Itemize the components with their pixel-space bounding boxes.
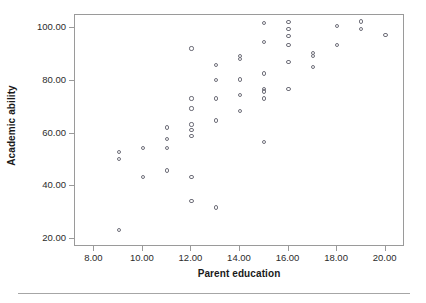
x-axis-title: Parent education	[74, 268, 404, 279]
data-point	[165, 168, 169, 172]
x-tick-mark	[336, 246, 337, 251]
plot-area	[74, 14, 404, 246]
data-point	[117, 150, 121, 154]
data-point	[262, 40, 266, 44]
data-point	[189, 199, 193, 203]
data-point	[238, 93, 242, 97]
y-tick-mark	[69, 133, 74, 134]
data-point	[335, 24, 339, 28]
data-point	[286, 20, 290, 24]
x-tick-label: 16.00	[263, 252, 313, 263]
scatter-plot-figure: Academic ability 20.0040.0060.0080.00100…	[0, 0, 426, 303]
y-tick-label: 80.00	[6, 74, 66, 85]
data-point	[311, 65, 315, 69]
data-point	[286, 34, 290, 38]
data-point	[359, 27, 363, 31]
data-point	[214, 205, 218, 209]
y-tick-label: 20.00	[6, 232, 66, 243]
x-tick-label: 18.00	[311, 252, 361, 263]
data-point	[189, 106, 193, 110]
data-point	[262, 140, 266, 144]
x-tick-mark	[385, 246, 386, 251]
data-point	[286, 87, 290, 91]
x-tick-mark	[93, 246, 94, 251]
data-point	[286, 60, 290, 64]
y-tick-label: 60.00	[6, 127, 66, 138]
y-tick-mark	[69, 238, 74, 239]
data-point	[189, 175, 193, 179]
data-point	[117, 228, 121, 232]
data-point	[262, 71, 266, 75]
y-axis-title: Academic ability	[0, 0, 22, 250]
data-point	[335, 43, 339, 47]
data-point	[262, 21, 266, 25]
x-tick-mark	[239, 246, 240, 251]
y-tick-mark	[69, 80, 74, 81]
y-tick-label: 100.00	[6, 21, 66, 32]
data-point	[214, 78, 218, 82]
x-tick-label: 8.00	[68, 252, 118, 263]
x-tick-mark	[142, 246, 143, 251]
y-axis-title-label: Academic ability	[6, 85, 17, 166]
data-point	[165, 125, 169, 129]
x-tick-mark	[190, 246, 191, 251]
y-tick-mark	[69, 185, 74, 186]
x-tick-label: 20.00	[360, 252, 410, 263]
data-point	[383, 33, 387, 37]
x-tick-label: 10.00	[117, 252, 167, 263]
data-point	[117, 157, 121, 161]
x-tick-label: 14.00	[214, 252, 264, 263]
data-point	[262, 89, 266, 93]
data-point	[214, 118, 218, 122]
data-point	[238, 57, 242, 61]
footer-divider	[18, 293, 410, 294]
data-point	[214, 63, 218, 67]
data-point	[238, 77, 242, 81]
data-point	[214, 96, 218, 100]
data-point	[311, 54, 315, 58]
data-point	[359, 19, 363, 23]
data-point	[189, 134, 193, 138]
data-point	[286, 43, 290, 47]
data-point	[189, 122, 193, 126]
y-tick-label: 40.00	[6, 179, 66, 190]
data-point	[141, 175, 145, 179]
x-tick-mark	[288, 246, 289, 251]
data-point	[238, 109, 242, 113]
data-point	[189, 128, 193, 132]
data-point	[141, 146, 145, 150]
data-point	[189, 46, 193, 50]
data-point	[189, 96, 193, 100]
data-point	[262, 96, 266, 100]
data-point	[165, 146, 169, 150]
data-point-layer	[75, 15, 403, 245]
data-point	[165, 137, 169, 141]
y-tick-mark	[69, 27, 74, 28]
data-point	[286, 27, 290, 31]
x-tick-label: 12.00	[165, 252, 215, 263]
